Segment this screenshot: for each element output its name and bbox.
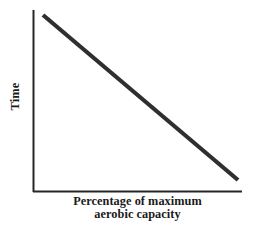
data-line-series-1 [43, 15, 238, 180]
x-axis-label: Percentage of maximum aerobic capacity [33, 195, 242, 220]
chart-figure: Time Percentage of maximum aerobic capac… [0, 0, 254, 232]
x-axis-label-line-1: Percentage of maximum [73, 194, 202, 208]
x-axis-label-line-2: aerobic capacity [33, 208, 242, 221]
